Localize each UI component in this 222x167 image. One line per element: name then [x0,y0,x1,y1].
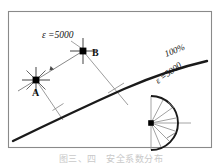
epsilon-top-label: ε =5000 [42,30,74,40]
figure-container: ε =5000 A B 100% ε =5000 图三、四 安全系数分布 [0,0,222,167]
point-a-label: A [32,87,40,98]
point-b-label: B [92,47,99,58]
figure-caption: 图三、四 安全系数分布 [0,151,222,167]
engineering-diagram: ε =5000 A B 100% ε =5000 [0,0,222,167]
fan-center-dot [148,120,154,126]
